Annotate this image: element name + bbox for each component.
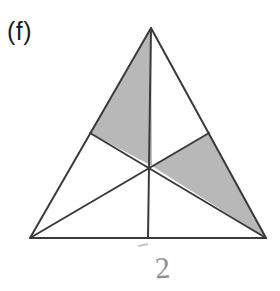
geometry-figure: (f) 2 xyxy=(0,0,280,291)
triangle-medians-diagram xyxy=(0,0,280,291)
handwritten-annotation: 2 xyxy=(154,252,171,285)
upper-left-shaded-triangle xyxy=(90,28,152,166)
median-bottom-left-to-right-midpoint xyxy=(30,133,209,238)
median-bottom-right-to-left-midpoint xyxy=(90,133,266,238)
lower-right-shaded-triangle xyxy=(152,133,266,238)
